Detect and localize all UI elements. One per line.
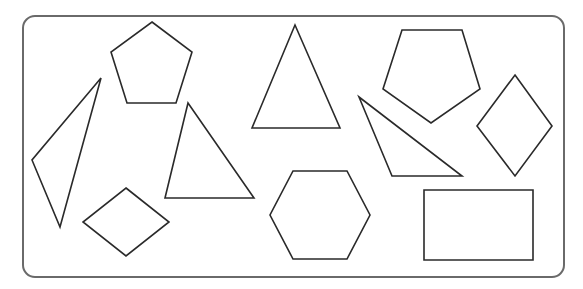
rectangle-bottom-right-shape <box>424 190 533 260</box>
shapes-diagram <box>0 0 583 289</box>
